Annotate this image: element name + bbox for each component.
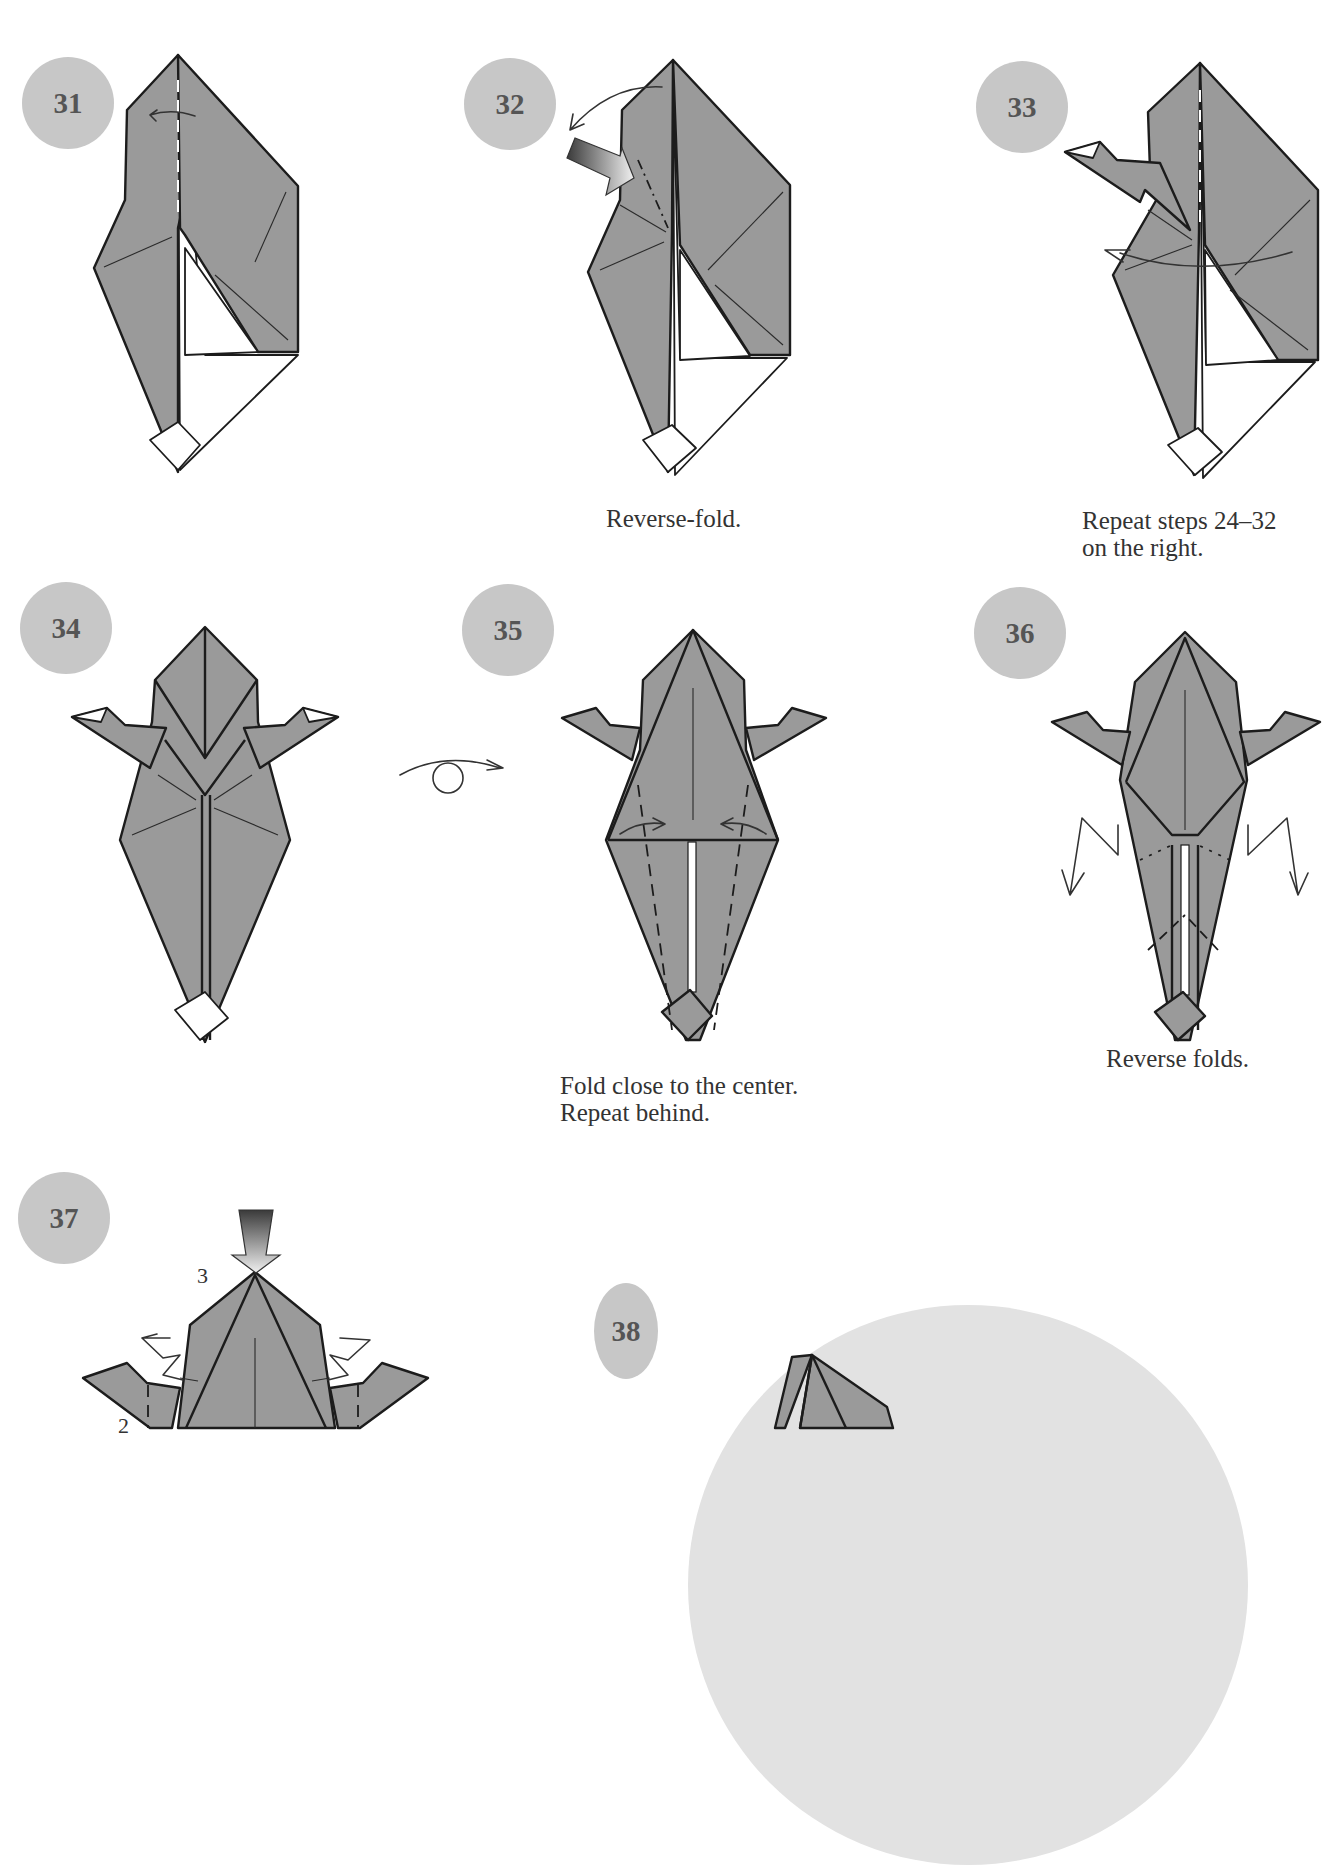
step-38-diagram <box>0 0 1326 1428</box>
